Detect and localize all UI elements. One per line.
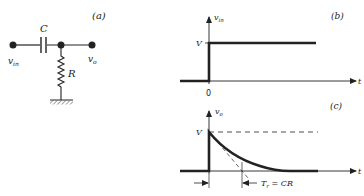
vo-axis-label: vo <box>215 107 224 117</box>
panel-c-label: (c) <box>330 101 343 111</box>
exponential-decay-waveform <box>180 132 318 171</box>
resistor-symbol <box>58 48 64 100</box>
rc-differentiator-diagram: (a) C vin vo R (b) <box>0 0 364 196</box>
output-terminal <box>89 42 96 49</box>
output-label: vo <box>88 54 97 65</box>
time-constant-dimension <box>194 162 257 188</box>
panel-b-label: (b) <box>331 11 344 21</box>
input-waveform-panel: (b) vin t V 0 <box>180 11 362 98</box>
circuit-panel: (a) C vin vo R <box>8 10 106 105</box>
input-label: vin <box>8 56 19 67</box>
vo-t-label: t <box>358 167 362 176</box>
input-terminal <box>10 42 17 49</box>
time-constant-label: Tr = CR <box>261 179 293 189</box>
ground-icon <box>50 100 73 105</box>
vo-level-label: V <box>196 128 203 137</box>
vin-axis-label: vin <box>214 13 224 23</box>
vin-t-label: t <box>358 77 362 86</box>
capacitor-symbol <box>41 37 46 53</box>
output-waveform-panel: (c) vo t V Tr = CR <box>180 101 362 189</box>
vin-level-label: V <box>196 39 203 48</box>
origin-label: 0 <box>206 89 211 98</box>
panel-a-label: (a) <box>92 10 106 21</box>
capacitor-label: C <box>40 23 48 34</box>
step-waveform <box>180 43 316 81</box>
resistor-label: R <box>67 68 76 79</box>
junction-node <box>58 42 65 49</box>
